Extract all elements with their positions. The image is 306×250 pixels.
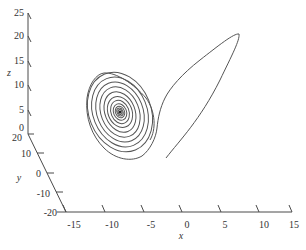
attractor-center-point [119, 111, 122, 114]
svg-text:5: 5 [19, 104, 24, 115]
trajectory-spiral [76, 62, 164, 161]
svg-text:-20: -20 [44, 207, 57, 218]
z-tick-labels: 25 20 15 10 5 0 [14, 7, 24, 133]
svg-text:-15: -15 [67, 219, 80, 230]
svg-text:10: 10 [21, 148, 31, 159]
x-ticks [63, 205, 292, 212]
svg-text:25: 25 [14, 7, 24, 18]
svg-text:15: 15 [14, 55, 24, 66]
svg-text:5: 5 [223, 219, 228, 230]
x-tick-labels: -15 -10 -5 0 5 10 15 [67, 219, 299, 230]
svg-text:10: 10 [14, 79, 24, 90]
svg-text:20: 20 [14, 30, 24, 41]
plot-canvas: 25 20 15 10 5 0 z 20 10 0 -10 -20 y [0, 0, 306, 250]
svg-text:15: 15 [289, 219, 299, 230]
svg-text:20: 20 [12, 132, 22, 143]
svg-text:10: 10 [259, 219, 269, 230]
svg-text:-10: -10 [105, 219, 118, 230]
x-axis-label: x [178, 230, 184, 241]
svg-text:0: 0 [36, 168, 41, 179]
y-axis-label: y [16, 172, 22, 183]
svg-text:-10: -10 [37, 188, 50, 199]
plot-figure: 25 20 15 10 5 0 z 20 10 0 -10 -20 y [0, 0, 306, 250]
z-axis-label: z [6, 67, 11, 78]
trajectory-outer-lobe [87, 34, 239, 159]
svg-text:-5: -5 [147, 219, 155, 230]
svg-text:0: 0 [185, 219, 190, 230]
